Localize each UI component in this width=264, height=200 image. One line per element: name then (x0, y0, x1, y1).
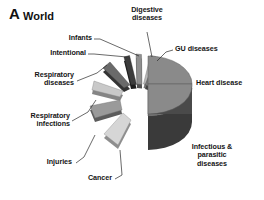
label-gu-diseases: GU diseases (175, 45, 245, 53)
label-infectious-parasitic: Infectious & parasitic diseases (178, 143, 246, 168)
pie-chart-graphic (0, 0, 264, 200)
slice-heart-disease (148, 56, 192, 114)
label-intentional: Intentional (25, 49, 86, 57)
leader-digestive-diseases (147, 32, 152, 57)
slice-cancer (104, 113, 131, 149)
slice-infants (136, 54, 142, 89)
leader-intentional (88, 54, 127, 57)
label-cancer: Cancer (70, 174, 112, 182)
label-infants: Infants (44, 34, 92, 42)
leader-infants (94, 39, 139, 56)
leader-injuries (76, 135, 95, 163)
label-respiratory-diseases: Respiratory diseases (10, 71, 74, 88)
label-injuries: Injuries (28, 158, 72, 166)
label-heart-disease: Heart disease (196, 79, 262, 87)
label-digestive-diseases: Digestive diseases (119, 6, 175, 23)
slice-injuries (90, 100, 122, 122)
pie-chart-figure: A World (0, 0, 264, 200)
leader-cancer (115, 150, 122, 179)
leader-respiratory-diseases (77, 65, 107, 81)
label-respiratory-infections: Respiratory infections (4, 112, 70, 129)
